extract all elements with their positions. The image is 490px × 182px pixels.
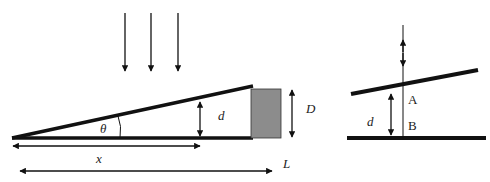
point-B-label: B bbox=[408, 118, 417, 133]
point-A-label: A bbox=[408, 92, 418, 107]
incident-light-arrows bbox=[125, 13, 178, 71]
x-label: x bbox=[95, 151, 102, 166]
D-label: D bbox=[305, 101, 316, 116]
d-label-right: d bbox=[367, 114, 374, 129]
spacer-block bbox=[251, 89, 281, 138]
right-detail-diagram: d A B bbox=[347, 25, 486, 138]
L-label: L bbox=[282, 156, 290, 171]
left-wedge-diagram: θ d D x L bbox=[12, 13, 316, 171]
top-plate-detail bbox=[351, 70, 478, 94]
theta-label: θ bbox=[100, 121, 107, 136]
thin-film-wedge-diagram: θ d D x L d A B bbox=[0, 0, 490, 182]
angle-arc bbox=[118, 116, 121, 138]
top-plate bbox=[12, 86, 253, 138]
d-label-left: d bbox=[218, 108, 225, 123]
